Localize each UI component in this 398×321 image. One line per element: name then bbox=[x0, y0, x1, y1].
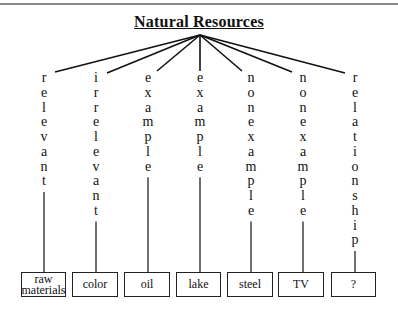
letter: e bbox=[34, 86, 54, 101]
letter: a bbox=[34, 145, 54, 160]
concept-box: oil bbox=[124, 272, 170, 297]
letter: p bbox=[293, 174, 313, 189]
letter: n bbox=[34, 160, 54, 175]
concept-box: lake bbox=[176, 272, 221, 297]
letter: x bbox=[293, 130, 313, 145]
letter: m bbox=[241, 160, 261, 175]
letter: s bbox=[345, 189, 365, 204]
letter: e bbox=[293, 204, 313, 219]
letter: r bbox=[86, 101, 106, 116]
letter: l bbox=[86, 130, 106, 145]
letter: a bbox=[241, 145, 261, 160]
vertical-label-nonexample: nonexample bbox=[241, 71, 261, 219]
letter: l bbox=[241, 189, 261, 204]
letter: e bbox=[241, 115, 261, 130]
letter: p bbox=[345, 233, 365, 248]
letter: o bbox=[345, 160, 365, 175]
letter: n bbox=[293, 101, 313, 116]
letter: e bbox=[241, 204, 261, 219]
letter: a bbox=[138, 101, 158, 116]
letter: o bbox=[293, 86, 313, 101]
letter: m bbox=[190, 115, 210, 130]
vertical-label-nonexample: nonexample bbox=[293, 71, 313, 219]
letter: i bbox=[86, 71, 106, 86]
vertical-label-irrelevant: irrelevant bbox=[86, 71, 106, 219]
letter: v bbox=[34, 130, 54, 145]
ray-line bbox=[107, 35, 200, 73]
letter: x bbox=[241, 130, 261, 145]
letter: e bbox=[190, 71, 210, 86]
letter: n bbox=[241, 71, 261, 86]
letter: a bbox=[190, 101, 210, 116]
letter: l bbox=[34, 101, 54, 116]
vertical-label-example: example bbox=[138, 71, 158, 174]
letter: l bbox=[138, 145, 158, 160]
letter: r bbox=[86, 86, 106, 101]
ray-line bbox=[200, 35, 292, 72]
letter: x bbox=[190, 86, 210, 101]
letter: a bbox=[86, 174, 106, 189]
letter: e bbox=[138, 71, 158, 86]
letter: e bbox=[293, 115, 313, 130]
letter: n bbox=[86, 189, 106, 204]
vertical-label-relevant: relevant bbox=[34, 71, 54, 189]
letter: e bbox=[190, 160, 210, 175]
letter: a bbox=[345, 115, 365, 130]
letter: t bbox=[34, 174, 54, 189]
letter: i bbox=[345, 219, 365, 234]
letter: i bbox=[345, 145, 365, 160]
letter: h bbox=[345, 204, 365, 219]
concept-box: raw materials bbox=[21, 272, 66, 297]
letter: o bbox=[241, 86, 261, 101]
letter: e bbox=[86, 145, 106, 160]
letter: m bbox=[293, 160, 313, 175]
concept-box: TV bbox=[278, 272, 324, 297]
letter: l bbox=[345, 101, 365, 116]
letter: v bbox=[86, 160, 106, 175]
letter: x bbox=[138, 86, 158, 101]
letter: p bbox=[190, 130, 210, 145]
letter: n bbox=[345, 174, 365, 189]
vertical-label-relationship: relationship bbox=[345, 71, 365, 248]
letter: e bbox=[34, 115, 54, 130]
concept-box: color bbox=[72, 272, 118, 297]
letter: r bbox=[34, 71, 54, 86]
letter: e bbox=[86, 115, 106, 130]
letter: t bbox=[345, 130, 365, 145]
letter: p bbox=[138, 130, 158, 145]
letter: n bbox=[241, 101, 261, 116]
letter: e bbox=[138, 160, 158, 175]
letter: e bbox=[345, 86, 365, 101]
letter: n bbox=[293, 71, 313, 86]
letter: p bbox=[241, 174, 261, 189]
letter: r bbox=[345, 71, 365, 86]
letter: l bbox=[293, 189, 313, 204]
letter: l bbox=[190, 145, 210, 160]
vertical-label-example: example bbox=[190, 71, 210, 174]
concept-box: ? bbox=[331, 272, 376, 297]
concept-box: steel bbox=[227, 272, 273, 297]
letter: t bbox=[86, 204, 106, 219]
letter: a bbox=[293, 145, 313, 160]
letter: m bbox=[138, 115, 158, 130]
